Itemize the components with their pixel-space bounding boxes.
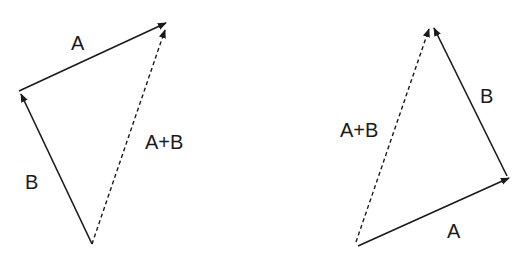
label-b-right: B — [480, 86, 493, 106]
label-sum-right: A+B — [340, 120, 378, 140]
vector-b-left — [21, 94, 92, 244]
label-a-left: A — [71, 33, 84, 53]
label-a-right: A — [447, 221, 460, 241]
label-sum-left: A+B — [145, 132, 183, 152]
left-diagram — [19, 23, 166, 244]
right-diagram — [356, 28, 509, 246]
vector-a-left — [19, 23, 166, 91]
label-b-left: B — [25, 172, 38, 192]
vector-b-right — [434, 28, 507, 176]
vector-a-right — [358, 178, 509, 246]
